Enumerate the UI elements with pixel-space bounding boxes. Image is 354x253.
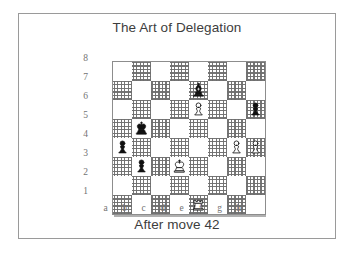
piece-white-pawn-g4[interactable] [227,138,246,157]
piece-black-pawn-h6[interactable] [246,100,265,119]
file-label-f: f [191,203,210,217]
square-g6[interactable] [227,100,246,119]
piece-black-king-b5[interactable] [132,119,151,138]
chess-diagram: 87654321 abcdefgh [76,43,276,213]
square-e2[interactable] [189,176,208,195]
square-f5[interactable] [208,119,227,138]
chess-board[interactable] [112,61,266,215]
black-pawn-glyph [133,158,150,175]
square-f4[interactable] [208,138,227,157]
file-label-h: h [229,203,248,217]
black-bishop-glyph [190,82,207,99]
square-e6[interactable] [189,100,208,119]
rank-label-8: 8 [76,48,92,67]
square-b5[interactable] [132,119,151,138]
piece-black-bishop-e7[interactable] [189,81,208,100]
square-b3[interactable] [132,157,151,176]
square-e3[interactable] [189,157,208,176]
piece-black-pawn-a4[interactable] [113,138,132,157]
square-a6[interactable] [113,100,132,119]
square-h1[interactable] [246,195,265,214]
square-f3[interactable] [208,157,227,176]
square-e7[interactable] [189,81,208,100]
square-e5[interactable] [189,119,208,138]
square-c5[interactable] [151,119,170,138]
white-pawn-glyph [190,101,207,118]
file-label-b: b [115,203,134,217]
square-f2[interactable] [208,176,227,195]
square-g3[interactable] [227,157,246,176]
rank-label-6: 6 [76,86,92,105]
square-b2[interactable] [132,176,151,195]
rank-label-7: 7 [76,67,92,86]
square-c3[interactable] [151,157,170,176]
figure-frame: The Art of Delegation 87654321 abcdefgh … [18,13,336,239]
rank-label-5: 5 [76,105,92,124]
square-h7[interactable] [246,81,265,100]
piece-white-pawn-h4[interactable] [246,138,265,157]
square-h3[interactable] [246,157,265,176]
square-d8[interactable] [170,62,189,81]
square-c8[interactable] [151,62,170,81]
square-h8[interactable] [246,62,265,81]
square-d2[interactable] [170,176,189,195]
square-b4[interactable] [132,138,151,157]
square-d3[interactable] [170,157,189,176]
square-c2[interactable] [151,176,170,195]
page-title: The Art of Delegation [19,20,335,35]
square-f7[interactable] [208,81,227,100]
file-axis-labels: abcdefgh [96,203,248,217]
white-king-glyph [171,158,188,175]
black-pawn-glyph [247,101,264,118]
square-c7[interactable] [151,81,170,100]
square-g4[interactable] [227,138,246,157]
rank-label-2: 2 [76,162,92,181]
square-d4[interactable] [170,138,189,157]
file-label-d: d [153,203,172,217]
square-d6[interactable] [170,100,189,119]
square-h2[interactable] [246,176,265,195]
rank-label-3: 3 [76,143,92,162]
square-f6[interactable] [208,100,227,119]
square-b6[interactable] [132,100,151,119]
square-a2[interactable] [113,176,132,195]
square-a7[interactable] [113,81,132,100]
white-pawn-glyph [247,139,264,156]
square-h5[interactable] [246,119,265,138]
square-c6[interactable] [151,100,170,119]
square-h4[interactable] [246,138,265,157]
square-d7[interactable] [170,81,189,100]
rank-label-1: 1 [76,181,92,200]
file-label-c: c [134,203,153,217]
square-g2[interactable] [227,176,246,195]
piece-white-pawn-e6[interactable] [189,100,208,119]
figure-caption: After move 42 [19,217,335,232]
square-a8[interactable] [113,62,132,81]
file-label-a: a [96,203,115,217]
square-e8[interactable] [189,62,208,81]
square-a3[interactable] [113,157,132,176]
piece-black-pawn-b3[interactable] [132,157,151,176]
square-h6[interactable] [246,100,265,119]
square-a4[interactable] [113,138,132,157]
black-king-glyph [133,120,150,137]
white-pawn-glyph [228,139,245,156]
file-label-e: e [172,203,191,217]
square-f8[interactable] [208,62,227,81]
square-b8[interactable] [132,62,151,81]
black-pawn-glyph [114,139,131,156]
square-b7[interactable] [132,81,151,100]
square-c4[interactable] [151,138,170,157]
square-e4[interactable] [189,138,208,157]
square-d5[interactable] [170,119,189,138]
piece-white-king-d3[interactable] [170,157,189,176]
file-label-g: g [210,203,229,217]
square-g7[interactable] [227,81,246,100]
square-a5[interactable] [113,119,132,138]
square-g5[interactable] [227,119,246,138]
rank-label-4: 4 [76,124,92,143]
square-g8[interactable] [227,62,246,81]
rank-axis-labels: 87654321 [76,48,92,200]
